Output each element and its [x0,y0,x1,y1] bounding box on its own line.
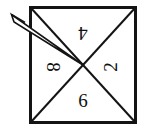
sector-label-top: 4 [78,23,88,44]
spinner-diagram: 4 2 8 6 [0,0,145,133]
sector-label-left: 8 [43,62,64,72]
sector-label-right: 2 [100,62,121,72]
spinner-figure: 4 2 8 6 [0,0,145,133]
sector-label-bottom: 6 [78,90,88,111]
